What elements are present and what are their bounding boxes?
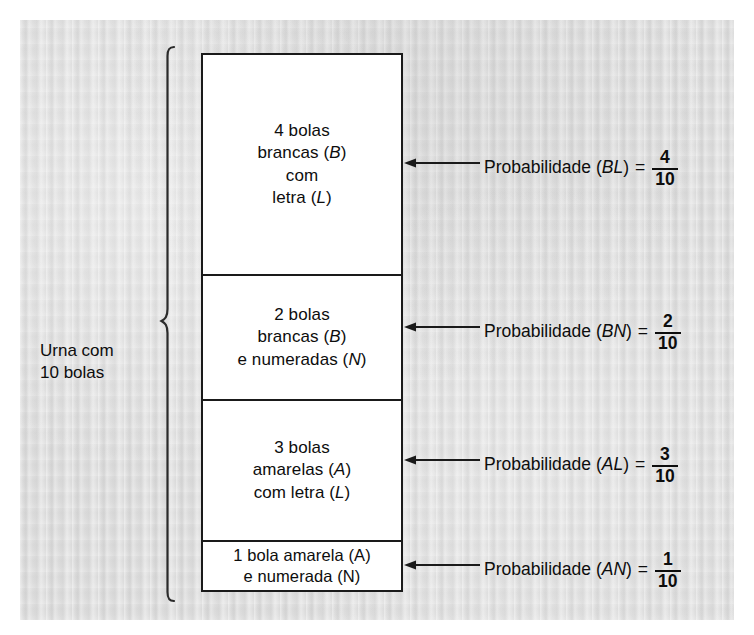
left-arrow-icon [404,157,480,169]
fraction-numerator: 4 [657,149,673,168]
probability-label-AL: Probabilidade (AL) = 3 10 [484,445,678,484]
urn-caption-line1: Urna com [40,340,170,362]
urn-caption: Urna com 10 bolas [40,340,170,385]
probability-fraction: 4 10 [652,149,677,188]
arrow-to-prob-BL [404,157,480,169]
urn-cell-text: 2 bolasbrancas (B)e numeradas (N) [237,304,366,370]
arrow-to-prob-BN [404,321,480,333]
urn-brace [152,44,178,604]
urn-cell-text: 4 bolasbrancas (B)comletra (L) [258,120,347,208]
probability-expression: Probabilidade (BL) [484,157,629,178]
probability-expression: Probabilidade (AN) [484,559,632,580]
fraction-numerator: 3 [657,446,673,465]
urn-cell-bolas-brancas-numeradas: 2 bolasbrancas (B)e numeradas (N) [203,274,401,399]
probability-fraction: 1 10 [655,551,680,590]
fraction-numerator: 2 [660,313,676,332]
urn-caption-line2: 10 bolas [40,362,170,384]
fraction-denominator: 10 [652,170,677,189]
urn-box: 4 bolasbrancas (B)comletra (L) 2 bolasbr… [201,53,403,592]
left-arrow-icon [404,454,480,466]
equals-sign: = [638,559,648,580]
probability-label-BN: Probabilidade (BN) = 2 10 [484,312,681,351]
fraction-numerator: 1 [660,551,676,570]
probability-expression: Probabilidade (BN) [484,321,632,342]
urn-cell-bolas-amarelas-letra: 3 bolasamarelas (A)com letra (L) [203,399,401,540]
urn-cell-text: 3 bolasamarelas (A)com letra (L) [253,437,352,503]
urn-cell-text: 1 bola amarela (A)e numerada (N) [233,545,371,588]
urn-cell-bolas-brancas-letra: 4 bolasbrancas (B)comletra (L) [203,55,401,274]
arrow-to-prob-AL [404,454,480,466]
equals-sign: = [638,321,648,342]
arrow-to-prob-AN [404,559,480,571]
fraction-denominator: 10 [655,334,680,353]
brace-icon [152,44,178,604]
fraction-denominator: 10 [652,467,677,486]
equals-sign: = [635,157,645,178]
probability-label-AN: Probabilidade (AN) = 1 10 [484,550,681,589]
fraction-denominator: 10 [655,572,680,591]
probability-fraction: 2 10 [655,313,680,352]
urn-cell-bola-amarela-numerada: 1 bola amarela (A)e numerada (N) [203,540,401,590]
figure-canvas: Urna com 10 bolas 4 bolasbrancas (B)coml… [0,0,754,635]
probability-fraction: 3 10 [652,446,677,485]
probability-label-BL: Probabilidade (BL) = 4 10 [484,148,678,187]
probability-expression: Probabilidade (AL) [484,454,629,475]
left-arrow-icon [404,321,480,333]
equals-sign: = [635,454,645,475]
left-arrow-icon [404,559,480,571]
